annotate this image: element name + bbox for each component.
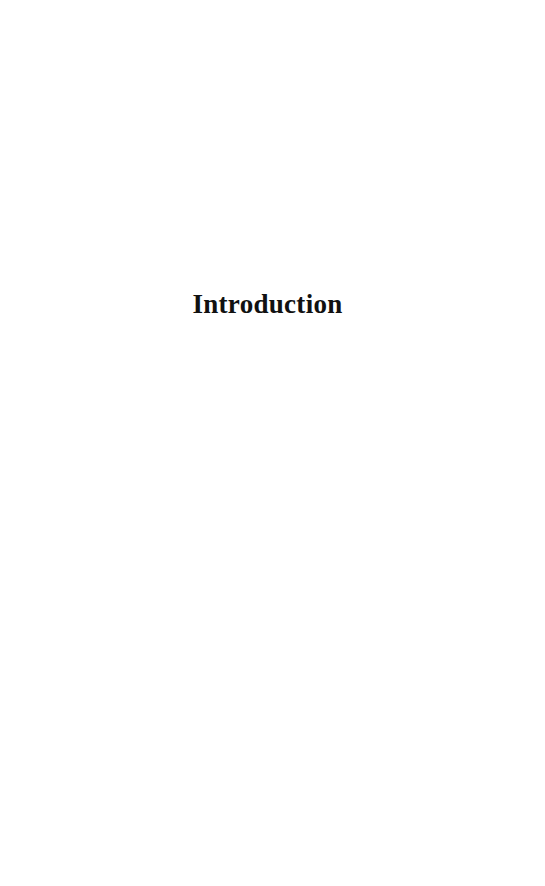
section-title: Introduction — [0, 287, 535, 321]
document-page: Introduction — [0, 0, 545, 886]
